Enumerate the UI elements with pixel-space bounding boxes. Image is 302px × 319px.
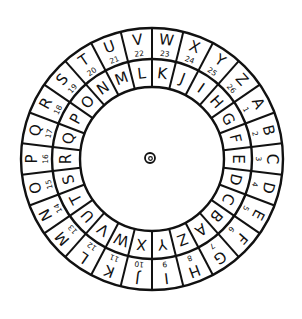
- outer-number: 8: [186, 253, 194, 263]
- outer-divider: [30, 113, 59, 124]
- inner-segment-p[interactable]: P: [66, 111, 86, 127]
- cipher-wheel: V22W23X24Y25Z26A1B2C3D4E5F6G7H8I9J10K11L…: [0, 0, 302, 319]
- inner-divider: [53, 168, 81, 171]
- outer-segment-e[interactable]: E5: [241, 204, 269, 223]
- outer-number: 3: [253, 157, 262, 162]
- inner-segment-e[interactable]: E: [229, 154, 247, 163]
- outer-divider: [251, 143, 282, 147]
- inner-segment-c[interactable]: C: [218, 190, 239, 208]
- outer-letter: I: [163, 269, 170, 287]
- inner-segment-i[interactable]: I: [194, 80, 208, 97]
- outer-segment-l[interactable]: L12: [75, 240, 99, 268]
- outer-segment-k[interactable]: K11: [101, 252, 121, 281]
- outer-number: 2: [250, 130, 260, 137]
- center-pivot: [145, 153, 155, 163]
- outer-segment-p[interactable]: P16: [23, 154, 51, 164]
- outer-segment-q[interactable]: Q17: [25, 122, 54, 139]
- inner-segment-k[interactable]: K: [156, 64, 169, 83]
- outer-number: 22: [134, 49, 145, 59]
- outer-number: 17: [44, 128, 55, 140]
- pivot-icon: [145, 153, 155, 163]
- outer-letter: V: [131, 30, 144, 49]
- inner-segment-z[interactable]: Z: [174, 229, 190, 249]
- outer-number: 15: [44, 178, 55, 190]
- outer-number: 16: [41, 154, 50, 164]
- outer-letter: W: [158, 30, 175, 50]
- outer-letter: J: [134, 269, 142, 288]
- inner-segment-l[interactable]: L: [136, 64, 147, 83]
- outer-divider: [22, 171, 53, 175]
- outer-letter: A: [248, 95, 269, 113]
- outer-letter: O: [25, 180, 45, 196]
- inner-letter: Z: [174, 229, 190, 249]
- outer-divider: [245, 194, 274, 205]
- outer-segment-b[interactable]: B2: [250, 123, 279, 137]
- outer-number: 9: [162, 259, 168, 269]
- inner-letter: P: [66, 111, 86, 127]
- inner-divider: [169, 62, 176, 89]
- outer-divider: [121, 256, 128, 286]
- outer-number: 4: [250, 181, 260, 188]
- outer-letter: B: [259, 123, 279, 137]
- outer-divider: [246, 113, 275, 124]
- outer-letter: C: [263, 154, 281, 164]
- outer-number: 10: [134, 259, 145, 269]
- outer-segment-x[interactable]: X24: [184, 37, 203, 66]
- outer-letter: Q: [25, 122, 45, 138]
- outer-letter: P: [23, 154, 41, 163]
- inner-letter: F: [226, 132, 246, 145]
- outer-segment-u[interactable]: U21: [101, 36, 121, 65]
- outer-segment-w[interactable]: W23: [158, 30, 175, 59]
- inner-letter: S: [59, 173, 79, 187]
- inner-divider: [223, 168, 251, 171]
- inner-letter: Q: [58, 131, 78, 147]
- outer-segment-n[interactable]: N14: [35, 202, 64, 224]
- inner-segment-d[interactable]: D: [225, 172, 245, 188]
- outer-segment-i[interactable]: I9: [162, 259, 170, 287]
- inner-letter: M: [112, 68, 130, 89]
- outer-divider: [176, 32, 183, 62]
- outer-divider: [30, 194, 59, 205]
- outer-segment-h[interactable]: H8: [186, 253, 203, 282]
- pivot-core-icon: [149, 157, 153, 161]
- inner-segment-x[interactable]: X: [135, 235, 147, 254]
- outer-letter: H: [186, 261, 203, 282]
- outer-divider: [176, 256, 183, 286]
- inner-divider: [53, 147, 81, 150]
- inner-letter: X: [135, 235, 147, 254]
- outer-number: 7: [208, 241, 217, 251]
- outer-segment-v[interactable]: V22: [131, 30, 144, 59]
- inner-letter: R: [57, 154, 75, 164]
- inner-letter: D: [225, 172, 245, 188]
- inner-letter: J: [176, 69, 187, 88]
- inner-letter: L: [136, 64, 147, 83]
- outer-divider: [121, 32, 128, 62]
- inner-segment-j[interactable]: J: [176, 69, 187, 88]
- inner-letter: Y: [156, 235, 169, 254]
- outer-letter: D: [258, 180, 278, 196]
- inner-segment-y[interactable]: Y: [156, 235, 169, 254]
- outer-divider: [251, 171, 282, 175]
- inner-segment-s[interactable]: S: [59, 173, 79, 187]
- inner-segment-q[interactable]: Q: [58, 131, 78, 147]
- outer-divider: [22, 143, 53, 147]
- outer-segment-d[interactable]: D4: [250, 180, 279, 196]
- inner-divider: [223, 147, 251, 150]
- outer-segment-c[interactable]: C3: [253, 154, 281, 164]
- outer-segment-j[interactable]: J10: [134, 259, 145, 287]
- outer-segment-a[interactable]: A1: [241, 95, 269, 115]
- inner-segment-f[interactable]: F: [226, 132, 246, 145]
- outer-segment-g[interactable]: G7: [208, 241, 231, 268]
- outer-number: 23: [160, 49, 171, 59]
- outer-number: 5: [241, 204, 251, 213]
- outer-segment-f[interactable]: F6: [226, 225, 251, 248]
- inner-letter: C: [218, 190, 239, 208]
- inner-letter: K: [156, 64, 169, 83]
- inner-letter: E: [229, 154, 247, 163]
- outer-segment-o[interactable]: O15: [25, 178, 54, 195]
- inner-segment-m[interactable]: M: [112, 68, 130, 89]
- inner-segment-r[interactable]: R: [57, 154, 75, 164]
- outer-segment-r[interactable]: R18: [35, 94, 64, 116]
- outer-number: 1: [241, 106, 251, 115]
- inner-letter: I: [194, 80, 208, 97]
